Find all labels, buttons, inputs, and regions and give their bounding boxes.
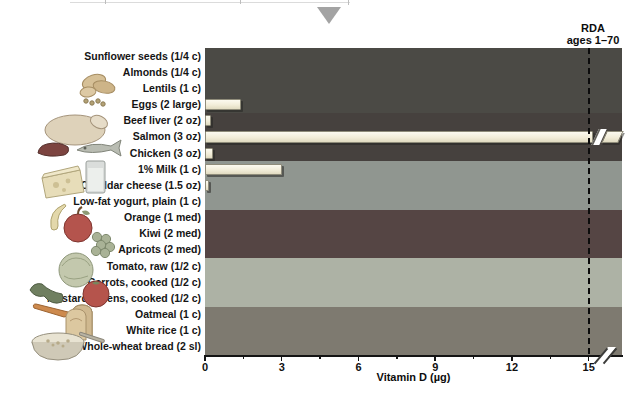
- crop-artifact: [105, 0, 106, 4]
- bar: [205, 99, 241, 110]
- x-axis-title: Vitamin D (µg): [205, 371, 622, 383]
- bar: [205, 148, 213, 159]
- food-group-band-vegetables: [205, 258, 622, 306]
- bar: [205, 164, 282, 175]
- x-axis-line: [205, 355, 623, 357]
- nuts-seeds-icon: [76, 70, 118, 108]
- food-group-band-grains: [205, 307, 622, 355]
- rda-annotation-line2: ages 1–70: [548, 34, 638, 46]
- crop-artifact: [348, 0, 349, 5]
- x-axis-minor-tick: [243, 355, 245, 359]
- x-axis-minor-tick: [473, 355, 475, 359]
- crop-artifact: [240, 0, 241, 4]
- crop-artifact: [70, 2, 350, 3]
- triangle-down-icon: [317, 7, 341, 24]
- bar-offscale-segment: [205, 131, 593, 143]
- food-group-band-legumes-nuts-seeds: [205, 48, 622, 113]
- vitamin-d-food-sources-chart: RDA ages 1–70 Sunflower seeds (1/4 c)Alm…: [0, 0, 639, 401]
- rda-dashed-line: [588, 48, 590, 355]
- rda-annotation-line1: RDA: [548, 22, 638, 34]
- bar: [205, 115, 211, 126]
- rda-annotation: RDA ages 1–70: [548, 22, 638, 46]
- category-label: Sunflower seeds (1/4 c): [0, 50, 201, 63]
- bar: [205, 180, 209, 191]
- x-axis-minor-tick: [319, 355, 321, 359]
- grains-icon: [28, 304, 118, 368]
- x-axis-minor-tick: [550, 355, 552, 359]
- food-group-band-fruits: [205, 210, 622, 258]
- x-axis-minor-tick: [396, 355, 398, 359]
